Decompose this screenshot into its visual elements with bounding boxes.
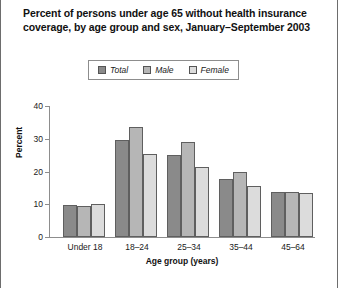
legend-item-total: Total [98, 65, 128, 75]
y-tick-0 [45, 237, 49, 238]
bar-group-4 [271, 106, 315, 237]
legend-swatch-total [98, 66, 106, 74]
legend-item-male: Male [143, 65, 173, 75]
x-axis-line [49, 237, 315, 238]
bar-total-1 [115, 140, 129, 237]
bar-female-0 [91, 204, 105, 237]
bar-group-1 [115, 106, 159, 237]
y-tick-label-0: 0 [19, 233, 43, 242]
bar-female-1 [143, 154, 157, 238]
y-tick-label-20: 20 [19, 168, 43, 177]
bar-male-1 [129, 127, 143, 237]
chart-title: Percent of persons under age 65 without … [23, 7, 321, 34]
legend-swatch-male [143, 66, 151, 74]
y-tick-label-40: 40 [19, 102, 43, 111]
y-tick-label-10: 10 [19, 200, 43, 209]
x-axis-title: Age group (years) [49, 256, 315, 266]
legend-item-female: Female [189, 65, 229, 75]
bar-group-3 [219, 106, 263, 237]
bar-female-2 [195, 167, 209, 237]
y-tick-40 [45, 106, 49, 107]
y-tick-10 [45, 204, 49, 205]
bar-total-2 [167, 155, 181, 237]
chart-legend: TotalMaleFemale [88, 60, 239, 80]
x-tick-label-4: 45–64 [262, 242, 324, 252]
bar-female-4 [299, 193, 313, 237]
legend-swatch-female [189, 66, 197, 74]
y-tick-30 [45, 139, 49, 140]
bar-female-3 [247, 186, 261, 237]
bar-total-0 [63, 205, 77, 237]
bar-male-3 [233, 172, 247, 237]
bar-male-4 [285, 192, 299, 237]
bar-male-0 [77, 206, 91, 237]
bar-total-3 [219, 179, 233, 237]
bar-group-2 [167, 106, 211, 237]
bar-male-2 [181, 142, 195, 237]
figure-panel: Percent of persons under age 65 without … [0, 0, 338, 288]
y-axis-title: Percent [14, 127, 24, 158]
bar-total-4 [271, 192, 285, 237]
bar-group-0 [63, 106, 107, 237]
legend-label-male: Male [155, 65, 173, 75]
legend-label-total: Total [110, 65, 128, 75]
y-axis-line [49, 106, 50, 238]
legend-label-female: Female [201, 65, 229, 75]
plot-area: 010203040Under 1818–2425–3435–4445–64 [49, 106, 315, 238]
y-tick-20 [45, 172, 49, 173]
